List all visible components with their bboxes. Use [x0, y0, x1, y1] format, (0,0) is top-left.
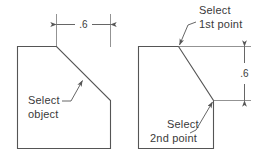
right-callout-second-line1: Select — [167, 118, 199, 130]
left-callout-line2: object — [28, 108, 59, 120]
right-figure-group: .6 Select 1st point Select 2nd point — [139, 4, 252, 149]
chamfer-instruction-drawing: .6 Select object .6 Select 1st point — [0, 0, 268, 167]
left-dimension-label: .6 — [79, 19, 88, 30]
technical-drawing-canvas: .6 Select object .6 Select 1st point — [0, 0, 268, 167]
right-callout-second-line2: 2nd point — [150, 132, 197, 144]
left-leader-line — [62, 81, 83, 102]
left-figure-group: .6 Select object — [18, 14, 111, 149]
right-callout-first-line2: 1st point — [199, 18, 242, 30]
left-callout-line1: Select — [28, 94, 60, 106]
right-leader-line-first-point — [180, 22, 197, 45]
right-callout-first-line1: Select — [199, 4, 231, 16]
right-dimension-label: .6 — [240, 68, 249, 79]
